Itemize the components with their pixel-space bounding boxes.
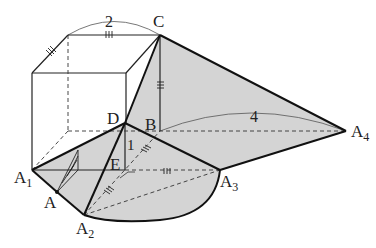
label-a3: A3 bbox=[220, 172, 238, 194]
label-b: B bbox=[145, 115, 156, 134]
label-a: A bbox=[44, 193, 57, 212]
shaded-regions bbox=[32, 35, 346, 221]
label-c: C bbox=[153, 12, 164, 31]
label-4: 4 bbox=[250, 108, 258, 125]
arc-top-2 bbox=[68, 22, 160, 36]
label-1: 1 bbox=[127, 137, 135, 153]
geometry-figure: 2 C D B 1 E 4 A1 A A2 A3 A4 bbox=[0, 0, 376, 248]
label-2: 2 bbox=[105, 13, 113, 30]
label-e: E bbox=[110, 155, 120, 174]
label-d: D bbox=[107, 109, 119, 128]
label-a4: A4 bbox=[351, 122, 369, 144]
label-a2: A2 bbox=[76, 219, 94, 241]
label-a1: A1 bbox=[14, 168, 32, 190]
